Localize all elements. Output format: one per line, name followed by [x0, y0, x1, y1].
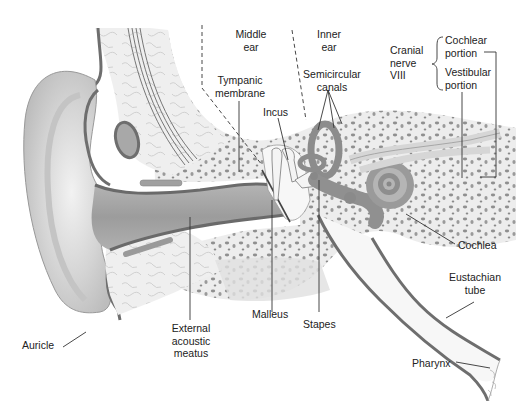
label-tympanic-membrane: Tympanic membrane: [212, 74, 268, 99]
label-eustachian-tube: Eustachian tube: [440, 271, 510, 296]
label-cranial-nerve-viii: Cranial nerve VIII: [390, 44, 423, 82]
label-semicircular-canals: Semicircular canals: [300, 68, 364, 93]
label-cochlear-portion: Cochlear portion: [445, 34, 487, 59]
label-stapes: Stapes: [303, 318, 336, 331]
label-pharynx: Pharynx: [412, 357, 451, 370]
label-external-acoustic-meatus: External acoustic meatus: [163, 322, 219, 360]
nerve-brace: [432, 37, 443, 90]
label-malleus: Malleus: [252, 308, 288, 321]
ear-anatomy-illustration: [0, 0, 516, 401]
label-inner-ear: Inner ear: [311, 28, 347, 53]
label-auricle: Auricle: [22, 339, 54, 352]
label-vestibular-portion: Vestibular portion: [445, 66, 491, 91]
label-incus: Incus: [263, 106, 288, 119]
label-cochlea: Cochlea: [458, 239, 497, 252]
label-middle-ear: Middle ear: [226, 28, 276, 53]
